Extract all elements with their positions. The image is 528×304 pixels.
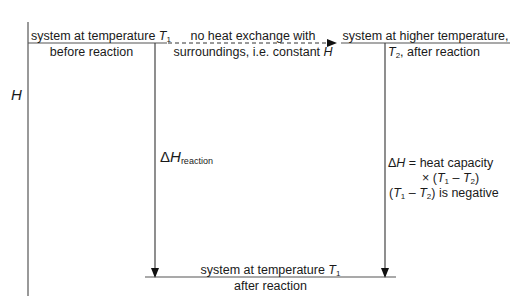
- t2-var: T: [419, 186, 427, 200]
- adiabatic-label-line2: surroundings, i.e. constant H: [168, 45, 338, 59]
- axis-label: H: [11, 88, 22, 102]
- t2-var: T: [463, 171, 471, 185]
- delta-h-heat-line1: ΔH = heat capacity: [388, 156, 493, 170]
- adiabatic-var: H: [324, 45, 333, 59]
- delta-h-reaction-label: ΔHreaction: [160, 150, 213, 164]
- t1-var: T: [437, 171, 445, 185]
- close-paren: ): [475, 171, 479, 185]
- reaction-sub: reaction: [181, 156, 213, 166]
- final-temp-var: T: [328, 263, 336, 277]
- negative-text: ) is negative: [431, 186, 498, 200]
- hot-level-label: system at higher temperature,: [341, 29, 510, 43]
- adiabatic-text: surroundings, i.e. constant: [173, 45, 323, 59]
- heat-capacity-text: = heat capacity: [405, 156, 493, 170]
- hot-temp-var: T: [388, 45, 396, 59]
- initial-level-sublabel: before reaction: [28, 45, 155, 59]
- final-level-label: system at temperature T1: [145, 263, 396, 277]
- t1-var: T: [393, 186, 401, 200]
- hot-level-rest: , after reaction: [400, 45, 480, 59]
- times-open: × (: [422, 171, 437, 185]
- adiabatic-label-line1: no heat exchange with: [168, 29, 338, 43]
- initial-level-text: system at temperature: [31, 29, 159, 43]
- final-level-text: system at temperature: [201, 263, 329, 277]
- final-temp-sub: 1: [336, 269, 340, 278]
- final-level-sublabel: after reaction: [145, 279, 396, 293]
- delta-h-heat-line2: × (T1 – T2): [422, 171, 479, 185]
- minus: –: [405, 186, 419, 200]
- initial-level-label: system at temperature T1: [31, 29, 171, 43]
- hot-level-sublabel: T2, after reaction: [388, 45, 480, 59]
- minus: –: [449, 171, 463, 185]
- enthalpy-var: H: [170, 148, 181, 165]
- delta-symbol: Δ: [160, 148, 170, 165]
- delta-h-heat-line3: (T1 – T2) is negative: [389, 186, 499, 200]
